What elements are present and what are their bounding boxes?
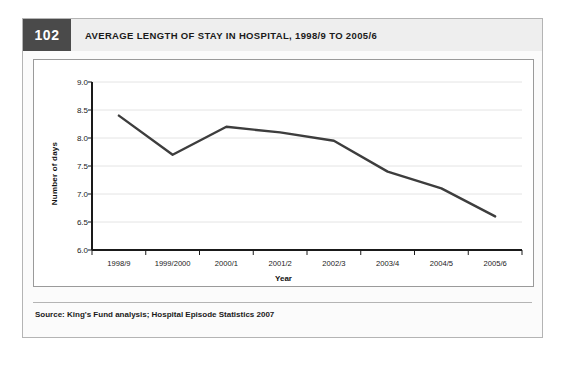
figure-container: 102 AVERAGE LENGTH OF STAY IN HOSPITAL, … <box>22 18 543 338</box>
plot-frame: Number of days 9.08.58.07.57.06.56.0 199… <box>33 59 534 287</box>
x-tick-label: 2001/2 <box>269 259 292 268</box>
x-tick-label: 1999/2000 <box>155 259 191 268</box>
x-tick-label: 2005/6 <box>484 259 507 268</box>
source-note: Source: King's Fund analysis; Hospital E… <box>35 310 274 319</box>
x-axis-tick-labels: 1998/91999/20002000/12001/22002/32003/42… <box>34 60 533 286</box>
figure-number-badge: 102 <box>23 19 71 51</box>
figure-header: 102 AVERAGE LENGTH OF STAY IN HOSPITAL, … <box>23 19 542 51</box>
x-tick-label: 2002/3 <box>322 259 345 268</box>
x-tick-label: 2003/4 <box>376 259 399 268</box>
x-tick-label: 2004/5 <box>430 259 453 268</box>
x-tick-label: 1998/9 <box>107 259 130 268</box>
x-axis-label-text: Year <box>275 274 292 283</box>
plot-area: Number of days 9.08.58.07.57.06.56.0 199… <box>34 60 533 286</box>
x-axis-label: Year <box>34 274 533 283</box>
figure-title: AVERAGE LENGTH OF STAY IN HOSPITAL, 1998… <box>71 19 542 51</box>
x-tick-label: 2000/1 <box>215 259 238 268</box>
source-divider <box>33 302 532 303</box>
